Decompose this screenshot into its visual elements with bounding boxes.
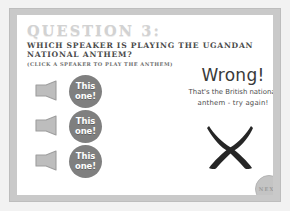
slide-page: QUESTION 3: WHICH SPEAKER IS PLAYING THE…: [0, 0, 290, 211]
answer-button-label-line2: one!: [75, 92, 96, 101]
answer-button-1[interactable]: This one!: [69, 75, 102, 108]
slide-frame: QUESTION 3: WHICH SPEAKER IS PLAYING THE…: [9, 8, 281, 202]
speaker-icon[interactable]: [35, 115, 59, 136]
question-prompt: WHICH SPEAKER IS PLAYING THE UGANDAN NAT…: [27, 41, 267, 60]
answer-button-3[interactable]: This one!: [69, 145, 102, 178]
next-button[interactable]: NEXT: [255, 175, 273, 195]
feedback-detail-line1: That's the British national: [175, 87, 273, 98]
cross-mark-icon: [203, 123, 257, 171]
speaker-icon[interactable]: [35, 80, 59, 101]
speaker-icon[interactable]: [35, 150, 59, 171]
answer-button-label-line2: one!: [75, 162, 96, 171]
page-title: QUESTION 3:: [27, 22, 161, 39]
next-button-label: NEXT: [259, 186, 273, 192]
slide-content: QUESTION 3: WHICH SPEAKER IS PLAYING THE…: [17, 15, 273, 195]
feedback-headline: Wrong!: [183, 65, 273, 85]
feedback-detail-line2: anthem - try again!: [175, 98, 273, 109]
answer-button-label-line2: one!: [75, 127, 96, 136]
answer-button-2[interactable]: This one!: [69, 110, 102, 143]
feedback-detail: That's the British national anthem - try…: [175, 87, 273, 109]
